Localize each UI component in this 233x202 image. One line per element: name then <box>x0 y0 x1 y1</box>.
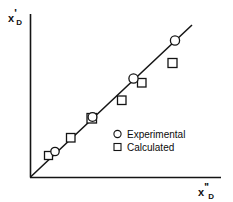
data-point-circle <box>51 147 59 155</box>
y-axis-label: x'D <box>8 8 22 27</box>
data-point-circle <box>129 74 138 83</box>
scatter-plot-figure <box>0 0 233 202</box>
legend-marker-circle <box>114 130 121 137</box>
data-point-square <box>138 79 147 88</box>
data-point-circle <box>170 36 179 45</box>
data-point-circle <box>88 113 97 122</box>
data-point-square <box>168 59 177 68</box>
legend-marker-square <box>114 144 121 151</box>
y-axis-label-subscript: D <box>16 18 22 27</box>
data-point-square <box>67 134 76 143</box>
data-point-square <box>118 96 127 105</box>
legend-label-calculated: Calculated <box>127 143 174 153</box>
x-axis-label: x''D <box>198 182 214 201</box>
x-axis-label-subscript: D <box>208 192 214 201</box>
legend-label-experimental: Experimental <box>127 130 185 140</box>
plot-background <box>0 0 233 202</box>
